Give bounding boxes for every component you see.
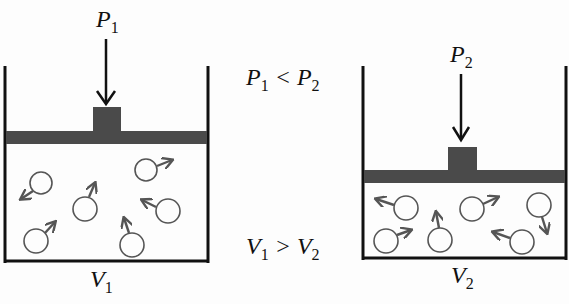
molecule-icon	[493, 230, 534, 254]
molecule-icon	[24, 222, 55, 253]
right-piston-knob	[448, 147, 477, 171]
left-pressure-arrow-icon	[97, 39, 115, 104]
volume-relation: V1>V2	[246, 233, 320, 263]
molecule-icon	[527, 193, 551, 233]
right-piston-plate	[364, 170, 565, 183]
left-volume-label: V1	[90, 266, 113, 296]
svg-text:V1>V2: V1>V2	[246, 233, 320, 263]
molecule-icon	[21, 172, 52, 199]
molecule-icon	[135, 159, 172, 181]
molecule-icon	[142, 199, 180, 223]
gas-pressure-volume-diagram: P1 V1	[0, 0, 569, 304]
left-piston-plate	[6, 131, 207, 144]
right-pressure-label: P2	[449, 41, 473, 71]
right-molecules	[374, 193, 551, 254]
left-molecules	[21, 159, 180, 257]
right-container: P2 V2	[362, 41, 567, 292]
svg-text:P1<P2: P1<P2	[245, 64, 320, 94]
left-pressure-label: P1	[95, 6, 119, 36]
molecule-icon	[120, 218, 144, 257]
molecule-icon	[376, 196, 418, 220]
right-pressure-arrow-icon	[453, 74, 469, 140]
molecule-icon	[428, 212, 452, 252]
molecule-icon	[374, 229, 411, 253]
right-volume-label: V2	[451, 262, 474, 292]
pressure-relation: P1<P2	[245, 64, 320, 94]
molecule-icon	[73, 183, 97, 221]
molecule-icon	[460, 197, 498, 221]
left-piston-knob	[93, 107, 121, 132]
left-container: P1 V1	[4, 6, 209, 296]
